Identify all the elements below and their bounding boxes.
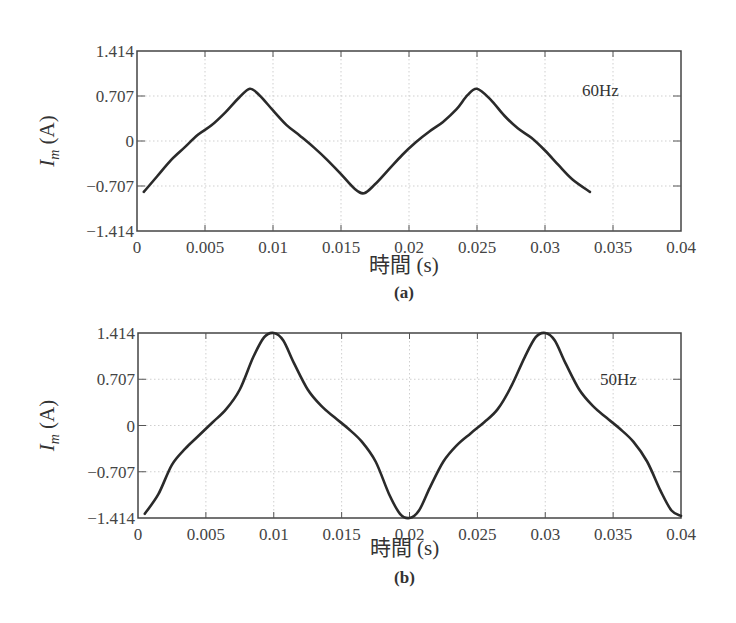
y-axis-label: Im (A): [35, 115, 62, 168]
x-tick-label: 0.005: [187, 525, 225, 544]
y-tick-label: −0.707: [86, 177, 134, 196]
x-tick-label: 0.03: [530, 238, 560, 257]
x-axis-label: 時間 (s): [369, 253, 438, 277]
y-tick-label: 0.707: [96, 87, 135, 106]
frequency-annotation: 50Hz: [600, 370, 637, 389]
x-tick-label: 0.025: [458, 525, 496, 544]
x-tick-label: 0.03: [530, 525, 560, 544]
x-tick-label: 0.04: [666, 238, 696, 257]
x-tick-label: 0.015: [322, 238, 360, 257]
y-tick-label: 1.414: [96, 42, 135, 61]
panel-caption: (a): [394, 283, 414, 302]
x-tick-label: 0.035: [594, 238, 632, 257]
x-tick-label: 0: [134, 525, 143, 544]
y-axis-label-unit: (A): [35, 115, 59, 149]
y-axis-label-subscript: m: [47, 150, 62, 160]
y-tick-label: 0.707: [97, 370, 136, 389]
x-tick-label: 0.035: [594, 525, 632, 544]
grid-lines: [138, 333, 681, 518]
y-tick-label: −1.414: [87, 509, 135, 528]
grid-lines: [137, 51, 681, 231]
y-tick-label: −1.414: [86, 222, 134, 241]
axis-ticks: 00.0050.010.0150.020.0250.030.0350.041.4…: [86, 42, 696, 257]
chart-panel-b: 00.0050.010.0150.020.0250.030.0350.041.4…: [35, 324, 696, 587]
axis-ticks: 00.0050.010.0150.020.0250.030.0350.041.4…: [87, 324, 696, 544]
x-axis-label: 時間 (s): [370, 536, 439, 560]
x-tick-label: 0.01: [259, 525, 289, 544]
y-axis-label-unit: (A): [35, 400, 59, 434]
chart-panel-a: 00.0050.010.0150.020.0250.030.0350.041.4…: [35, 42, 696, 302]
x-tick-label: 0.025: [458, 238, 496, 257]
current-curve: [145, 333, 681, 518]
panel-caption: (b): [394, 568, 415, 587]
frequency-annotation: 60Hz: [582, 81, 619, 100]
y-tick-label: 1.414: [97, 324, 136, 343]
x-tick-label: 0.015: [323, 525, 361, 544]
y-axis-label-subscript: m: [47, 434, 62, 444]
x-tick-label: 0: [133, 238, 142, 257]
y-tick-label: 0: [126, 132, 135, 151]
x-tick-label: 0.005: [186, 238, 224, 257]
y-axis-label: Im (A): [35, 400, 62, 453]
x-tick-label: 0.04: [666, 525, 696, 544]
figure: 00.0050.010.0150.020.0250.030.0350.041.4…: [0, 0, 736, 623]
x-tick-label: 0.01: [258, 238, 288, 257]
y-tick-label: −0.707: [87, 463, 135, 482]
current-curve: [144, 89, 590, 194]
y-tick-label: 0: [127, 417, 136, 436]
